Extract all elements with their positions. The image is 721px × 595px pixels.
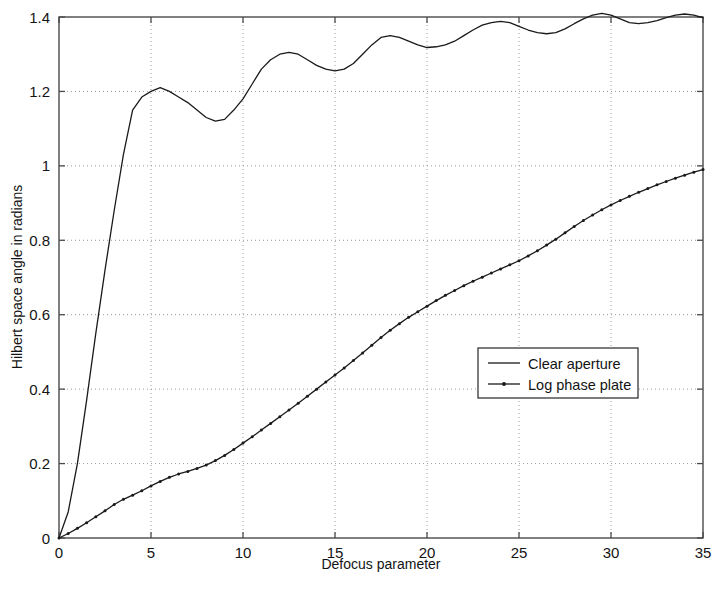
series-marker-1 bbox=[600, 208, 603, 211]
x-tick-label: 10 bbox=[235, 544, 252, 561]
series-marker-1 bbox=[481, 276, 484, 279]
legend-label-0: Clear aperture bbox=[528, 356, 621, 372]
series-marker-1 bbox=[536, 249, 539, 252]
series-marker-1 bbox=[58, 537, 61, 540]
series-marker-1 bbox=[637, 191, 640, 194]
series-marker-1 bbox=[683, 174, 686, 177]
series-marker-1 bbox=[490, 272, 493, 275]
series-marker-1 bbox=[306, 395, 309, 398]
series-marker-1 bbox=[361, 352, 364, 355]
series-marker-1 bbox=[177, 472, 180, 475]
series-marker-1 bbox=[232, 448, 235, 451]
axis-frame bbox=[59, 17, 703, 538]
series-marker-1 bbox=[223, 454, 226, 457]
y-tick-label: 0.2 bbox=[29, 455, 50, 472]
series-marker-1 bbox=[591, 213, 594, 216]
series-marker-1 bbox=[389, 329, 392, 332]
series-marker-1 bbox=[113, 503, 116, 506]
plot-border bbox=[59, 17, 703, 538]
x-tick-label: 35 bbox=[695, 544, 712, 561]
series-marker-1 bbox=[435, 299, 438, 302]
series-marker-1 bbox=[260, 429, 263, 432]
y-tick-label: 1 bbox=[42, 157, 50, 174]
series-marker-1 bbox=[159, 480, 162, 483]
series-marker-1 bbox=[518, 259, 521, 262]
legend-swatch-marker-1 bbox=[502, 382, 506, 386]
y-tick-label: 1.2 bbox=[29, 83, 50, 100]
series-marker-1 bbox=[545, 244, 548, 247]
series-marker-1 bbox=[582, 219, 585, 222]
series-marker-1 bbox=[564, 231, 567, 234]
series-marker-1 bbox=[196, 467, 199, 470]
series-marker-1 bbox=[508, 263, 511, 266]
series-marker-1 bbox=[186, 470, 189, 473]
series-marker-1 bbox=[278, 415, 281, 418]
series-marker-1 bbox=[122, 498, 125, 501]
y-tick-label: 0.8 bbox=[29, 232, 50, 249]
series-marker-1 bbox=[426, 305, 429, 308]
series-marker-1 bbox=[76, 527, 79, 530]
series-marker-1 bbox=[398, 322, 401, 325]
series-marker-1 bbox=[150, 484, 153, 487]
series-marker-1 bbox=[656, 183, 659, 186]
series-marker-1 bbox=[444, 294, 447, 297]
series-marker-1 bbox=[324, 381, 327, 384]
series-marker-1 bbox=[499, 267, 502, 270]
axis-ticks bbox=[59, 17, 703, 538]
series-marker-1 bbox=[85, 521, 88, 524]
series-marker-1 bbox=[67, 532, 70, 535]
y-tick-label: 1.4 bbox=[29, 9, 50, 26]
line-chart: 00.20.40.60.811.21.405101520253035 Clear… bbox=[0, 0, 721, 595]
series-marker-1 bbox=[269, 422, 272, 425]
series-marker-1 bbox=[205, 464, 208, 467]
series-marker-1 bbox=[242, 442, 245, 445]
x-tick-label: 5 bbox=[147, 544, 155, 561]
y-axis-title: Hilbert space angle in radians bbox=[9, 185, 25, 369]
series-marker-1 bbox=[610, 203, 613, 206]
series-marker-1 bbox=[472, 280, 475, 283]
legend-label-1: Log phase plate bbox=[528, 377, 631, 393]
series-marker-1 bbox=[527, 254, 530, 257]
series-marker-1 bbox=[352, 359, 355, 362]
series-marker-1 bbox=[619, 199, 622, 202]
chart-legend: Clear apertureLog phase plate bbox=[478, 348, 638, 398]
series-marker-1 bbox=[702, 168, 705, 171]
series-marker-1 bbox=[370, 344, 373, 347]
data-series bbox=[58, 13, 705, 539]
series-marker-1 bbox=[94, 515, 97, 518]
grid-lines bbox=[59, 17, 703, 538]
series-marker-1 bbox=[462, 284, 465, 287]
series-marker-1 bbox=[646, 187, 649, 190]
series-marker-1 bbox=[380, 336, 383, 339]
series-marker-1 bbox=[140, 489, 143, 492]
series-marker-1 bbox=[343, 366, 346, 369]
x-tick-label: 25 bbox=[511, 544, 528, 561]
series-marker-1 bbox=[315, 388, 318, 391]
x-axis-title: Defocus parameter bbox=[321, 556, 440, 572]
series-marker-1 bbox=[214, 459, 217, 462]
series-marker-1 bbox=[665, 180, 668, 183]
series-line-0 bbox=[59, 13, 703, 538]
series-marker-1 bbox=[416, 310, 419, 313]
y-tick-label: 0 bbox=[42, 530, 50, 547]
series-marker-1 bbox=[251, 435, 254, 438]
series-marker-1 bbox=[297, 402, 300, 405]
y-tick-label: 0.6 bbox=[29, 306, 50, 323]
series-marker-1 bbox=[628, 195, 631, 198]
series-marker-1 bbox=[692, 171, 695, 174]
x-tick-label: 0 bbox=[55, 544, 63, 561]
series-marker-1 bbox=[573, 225, 576, 228]
chart-figure: 00.20.40.60.811.21.405101520253035 Clear… bbox=[0, 0, 721, 595]
series-marker-1 bbox=[168, 476, 171, 479]
series-marker-1 bbox=[674, 177, 677, 180]
series-marker-1 bbox=[407, 316, 410, 319]
series-marker-1 bbox=[453, 289, 456, 292]
x-tick-label: 30 bbox=[603, 544, 620, 561]
series-marker-1 bbox=[334, 374, 337, 377]
series-marker-1 bbox=[131, 494, 134, 497]
series-marker-1 bbox=[288, 408, 291, 411]
series-marker-1 bbox=[554, 238, 557, 241]
y-tick-label: 0.4 bbox=[29, 381, 50, 398]
series-marker-1 bbox=[104, 509, 107, 512]
